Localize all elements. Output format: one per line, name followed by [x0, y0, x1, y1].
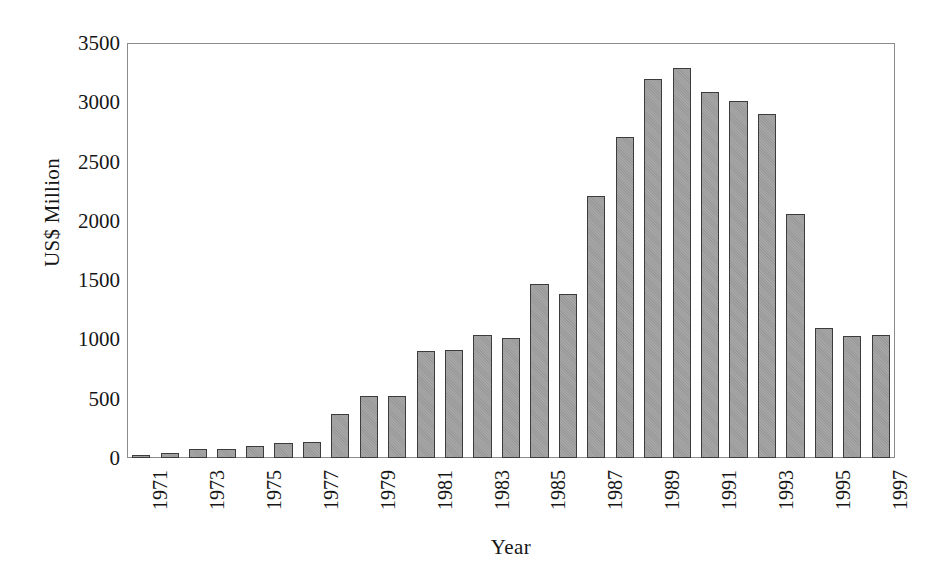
- y-tick-label: 1500: [8, 268, 120, 293]
- bar: [417, 351, 435, 458]
- bar: [729, 101, 747, 458]
- bar: [189, 449, 207, 458]
- bar: [303, 442, 321, 458]
- bar: [644, 79, 662, 458]
- bar: [445, 350, 463, 458]
- x-axis-label: Year: [127, 535, 895, 560]
- bar: [786, 214, 804, 458]
- bar-series: [127, 43, 895, 458]
- bar: [360, 396, 378, 458]
- y-axis-ticks: 0500100015002000250030003500: [0, 0, 120, 577]
- bar: [274, 443, 292, 458]
- bar: [502, 338, 520, 458]
- bar: [331, 414, 349, 458]
- bar: [559, 294, 577, 458]
- bar: [843, 336, 861, 458]
- bar: [872, 335, 890, 458]
- bar: [587, 196, 605, 458]
- bar: [815, 328, 833, 458]
- y-tick-label: 500: [8, 386, 120, 411]
- bar: [701, 92, 719, 458]
- bar: [530, 284, 548, 458]
- bar-chart: US$ Million 0500100015002000250030003500…: [0, 0, 927, 577]
- bar: [758, 114, 776, 458]
- bar: [217, 449, 235, 458]
- y-tick-label: 1000: [8, 327, 120, 352]
- y-tick-label: 3000: [8, 90, 120, 115]
- y-tick-label: 3500: [8, 31, 120, 56]
- bar: [246, 446, 264, 458]
- y-tick-label: 2500: [8, 149, 120, 174]
- y-tick-label: 0: [8, 446, 120, 471]
- bar: [673, 68, 691, 458]
- bar: [388, 396, 406, 458]
- bar: [473, 335, 491, 458]
- bar: [616, 137, 634, 458]
- y-tick-label: 2000: [8, 208, 120, 233]
